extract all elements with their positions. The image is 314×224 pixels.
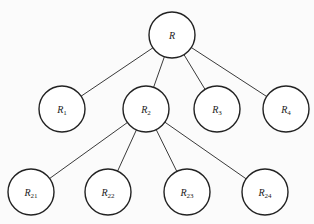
edge-r2-r23 [156,130,177,172]
edge-r-r2 [154,57,165,88]
node-label-base: R [100,187,107,198]
node-r22: R22 [85,169,131,215]
node-r1: R1 [39,86,85,132]
node-r24: R24 [242,169,288,215]
tree-diagram: RR1R2R3R4R21R22R23R24 [0,0,314,224]
node-r3: R3 [194,86,240,132]
node-label-base: R [257,187,264,198]
node-r23: R23 [164,169,210,215]
node-label-subscript: 2 [147,109,151,117]
node-label-subscript: 4 [287,109,291,117]
node-r21: R21 [8,169,54,215]
node-label-subscript: 24 [265,192,273,200]
node-label-base: R [168,30,175,41]
node-label-subscript: 23 [187,192,195,200]
node-label-base: R [56,104,63,115]
node-label-base: R [23,187,30,198]
node-label-subscript: 1 [63,109,67,117]
edge-r2-r24 [165,122,246,179]
node-r4: R4 [263,86,309,132]
node-r: R [149,12,195,58]
edge-r2-r22 [118,130,137,171]
node-label-base: R [140,104,147,115]
node-label-subscript: 21 [31,192,39,200]
edge-r-r3 [184,55,205,90]
node-label-subscript: 22 [108,192,116,200]
node-label: R [168,30,175,41]
nodes-layer: RR1R2R3R4R21R22R23R24 [8,12,309,215]
node-label-base: R [211,104,218,115]
node-label-base: R [179,187,186,198]
node-label-base: R [280,104,287,115]
node-label-subscript: 3 [218,109,222,117]
node-r2: R2 [123,86,169,132]
